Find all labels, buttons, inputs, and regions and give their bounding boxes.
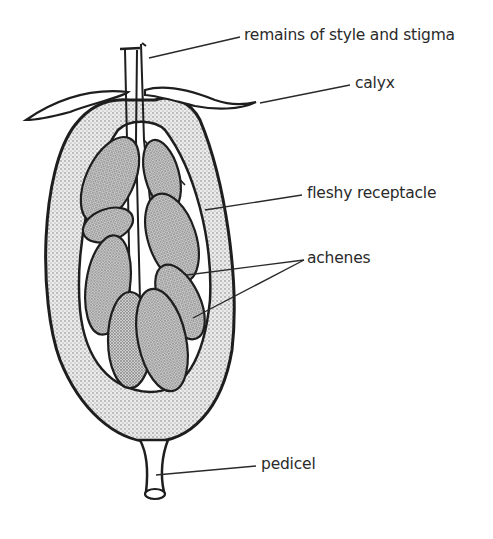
label-pedicel: pedicel	[261, 457, 316, 473]
leader-pedicel	[156, 466, 256, 475]
leader-style-stigma	[149, 37, 240, 58]
label-style-and-stigma: remains of style and stigma	[244, 28, 455, 44]
strawberry-section-diagram	[0, 0, 493, 539]
leader-calyx	[260, 85, 350, 103]
label-calyx: calyx	[355, 76, 395, 92]
pedicel	[140, 440, 168, 499]
label-achenes: achenes	[307, 251, 370, 267]
label-fleshy-receptacle: fleshy receptacle	[307, 186, 436, 202]
